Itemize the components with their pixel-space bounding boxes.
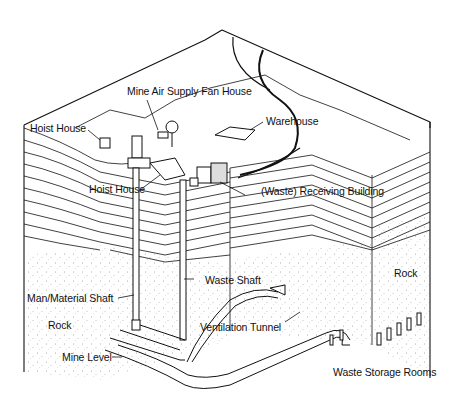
water-tank	[166, 121, 178, 133]
headframe-tower	[132, 136, 142, 158]
label-ventilation-tunnel: Ventilation Tunnel	[200, 322, 281, 333]
label-waste-receiving-building: (Waste) Receiving Building	[261, 186, 384, 197]
mine-cutaway-diagram: Mine Air Supply Fan House Hoist House Wa…	[0, 0, 459, 419]
label-waste-shaft: Waste Shaft	[205, 275, 261, 286]
label-rock-right: Rock	[394, 268, 418, 279]
label-hoist-house-surface: Hoist House	[30, 123, 86, 134]
receiving-building	[197, 167, 211, 183]
label-warehouse: Warehouse	[266, 116, 318, 127]
waste-shaft	[180, 180, 186, 340]
fan-house-building	[158, 132, 168, 138]
warehouse-building	[215, 127, 255, 140]
label-man-material-shaft: Man/Material Shaft	[27, 293, 113, 304]
hoist-house-shaft-building	[150, 158, 185, 180]
label-waste-storage-rooms: Waste Storage Rooms	[333, 367, 436, 378]
rail-lines	[233, 37, 300, 178]
hoist-house-building	[100, 138, 110, 148]
label-rock-left: Rock	[48, 320, 72, 331]
surface-top-edge	[24, 30, 430, 128]
label-mine-air-supply-fan-house: Mine Air Supply Fan House	[127, 86, 252, 97]
label-hoist-house-shaft: Hoist House	[89, 184, 145, 195]
label-mine-level: Mine Level	[62, 352, 112, 363]
